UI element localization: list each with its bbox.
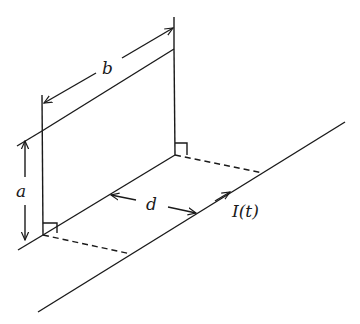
label-a: a bbox=[16, 181, 26, 201]
loop-wire-diagram: b a d I(t) bbox=[0, 0, 360, 324]
a-extension-top bbox=[17, 131, 42, 146]
current-wire bbox=[38, 122, 345, 312]
current-direction-arrow bbox=[215, 192, 230, 201]
dashed-perpendicular-bottom bbox=[43, 235, 131, 254]
right-angle-mark-top bbox=[175, 143, 187, 155]
dashed-perpendicular-top bbox=[175, 155, 263, 173]
label-d: d bbox=[146, 194, 157, 214]
label-current: I(t) bbox=[231, 201, 259, 221]
a-extension-bottom bbox=[18, 235, 43, 250]
label-b: b bbox=[102, 58, 113, 78]
